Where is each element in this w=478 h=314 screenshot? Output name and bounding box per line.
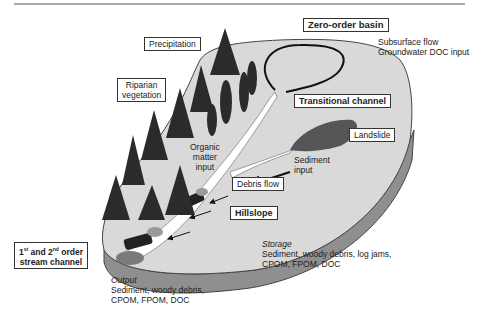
pool (116, 251, 144, 265)
storage-block: Storage Sediment, woody debris, log jams… (262, 239, 391, 269)
precipitation-label: Precipitation (144, 37, 201, 51)
output-line-2: CPOM, FPOM, DOC (111, 295, 189, 305)
storage-line-2: CPOM, FPOM, DOC (262, 259, 340, 269)
sediment-wedge-lower (147, 227, 163, 237)
riparian-vegetation-label: Riparian vegetation (117, 78, 166, 102)
output-line-1: Sediment, woody debris, (111, 285, 204, 295)
riparian-line-1: Riparian (126, 80, 158, 90)
organic-line-2: matter (193, 152, 217, 162)
sediment-line-1: Sediment (294, 155, 330, 165)
debris-flow-label: Debris flow (232, 177, 284, 191)
subsurface-flow-label: Subsurface flow (378, 37, 438, 47)
storage-line-1: Sediment, woody debris, log jams, (262, 249, 391, 259)
stream-post: order (59, 247, 83, 257)
diagram-canvas: Zero-order basin Subsurface flow Groundw… (0, 0, 478, 314)
output-block: Output Sediment, woody debris, CPOM, FPO… (111, 275, 204, 305)
organic-line-1: Organic (190, 142, 220, 152)
output-title: Output (111, 275, 137, 285)
sediment-line-2: input (294, 165, 312, 175)
sediment-wedge-upper (196, 188, 208, 196)
hillslope-label: Hillslope (230, 206, 278, 220)
groundwater-label: Groundwater DOC input (378, 47, 469, 57)
storage-title: Storage (262, 239, 292, 249)
stream-mid: and 2 (28, 247, 53, 257)
organic-matter-input-label: Organic matter input (190, 142, 220, 172)
organic-line-3: input (196, 162, 214, 172)
zero-order-basin-label: Zero-order basin (303, 18, 389, 32)
landslide-label: Landslide (349, 128, 395, 142)
sediment-input-label: Sediment input (294, 155, 330, 175)
transitional-channel-label: Transitional channel (294, 94, 391, 108)
stream-line-2: stream channel (20, 257, 82, 267)
stream-channel-label: 1st and 2nd order stream channel (14, 242, 88, 269)
riparian-line-2: vegetation (122, 90, 161, 100)
